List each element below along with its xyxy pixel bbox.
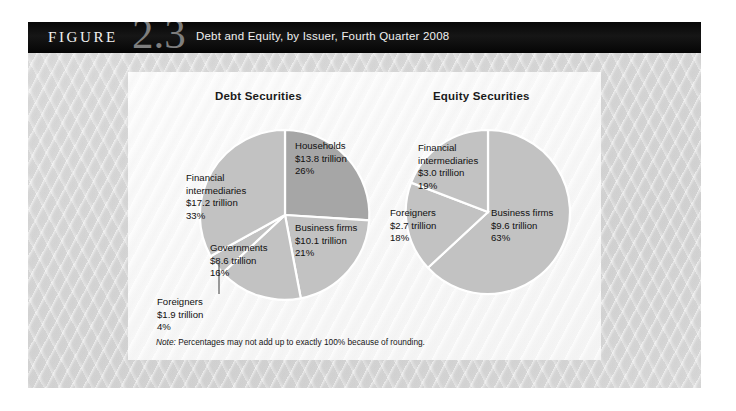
figure-header-bar: FIGURE 2.3 Debt and Equity, by Issuer, F… [28,22,701,53]
equity-label-foreigners: Foreigners $2.7 trillion 18% [390,207,436,245]
equity-label-financial-intermediaries: Financial intermediaries $3.0 trillion 1… [418,142,478,193]
chart-note: Note: Percentages may not add up to exac… [156,337,425,347]
figure-screenshot: FIGURE 2.3 Debt and Equity, by Issuer, F… [0,0,736,411]
debt-label-foreigners: Foreigners $1.9 trillion 4% [157,296,203,334]
debt-label-governments: Governments $8.6 trillion 16% [210,242,268,280]
equity-label-business-firms: Business firms $9.6 trillion 63% [491,207,553,245]
debt-label-business-firms: Business firms $10.1 trillion 21% [295,222,357,260]
figure-number: 2.3 [132,22,186,53]
figure-caption: Debt and Equity, by Issuer, Fourth Quart… [196,30,449,42]
debt-label-financial-intermediaries: Financial intermediaries $17.2 trillion … [186,172,246,223]
chart-panel: Debt Securities Equity Securities [128,72,601,360]
debt-label-households: Households $13.8 trillion 26% [295,140,347,178]
figure-label: FIGURE [48,29,118,46]
chart-note-text: Percentages may not add up to exactly 10… [178,337,425,347]
chart-note-prefix: Note: [156,337,176,347]
